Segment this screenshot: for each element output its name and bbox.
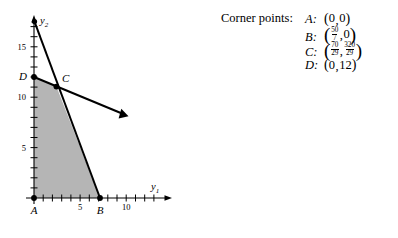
corner-point-row-D: D: (0,12) (305, 58, 362, 74)
feasible-region-plot: 5 10 5 10 15 A B C D y1 y2 (0, 0, 200, 238)
y-axis-label: y2 (39, 15, 49, 29)
x-tick-label-5: 5 (78, 202, 82, 212)
legend-title: Corner points: (221, 11, 293, 26)
corner-point-C-marker (54, 84, 60, 90)
corner-point-B-marker (97, 195, 103, 201)
corner-point-A-label: A (30, 204, 38, 216)
y-tick-label-10: 10 (18, 92, 27, 102)
corner-D-y: 12 (339, 58, 352, 73)
corner-C-x-fraction: 7029 (331, 42, 339, 58)
linear-programming-figure: 5 10 5 10 15 A B C D y1 y2 Corner points… (0, 0, 398, 238)
x-axis-arrowhead (165, 195, 173, 200)
corner-point-C-label: C (62, 72, 70, 84)
corner-point-D-label: D (18, 70, 27, 82)
corner-B-x-fraction: 507 (331, 27, 339, 43)
x-tick-label-10: 10 (122, 202, 131, 212)
y-tick-label-15: 15 (18, 42, 27, 52)
objective-arrowhead (119, 109, 129, 119)
feasible-region-shading (34, 77, 100, 198)
corner-point-row-C: C: (7029,32029) (305, 42, 362, 58)
corner-point-row-B: B: (507,0) (305, 27, 362, 43)
y-tick-label-5: 5 (22, 143, 26, 153)
corner-point-B-label: B (97, 204, 104, 216)
x-axis-label: y1 (150, 181, 159, 195)
corner-point-C-value: (7029,32029) (324, 42, 362, 58)
corner-point-B-key: B: (305, 30, 324, 45)
corner-point-A-marker (31, 195, 37, 201)
plot-panel: 5 10 5 10 15 A B C D y1 y2 (0, 0, 200, 238)
corner-point-D-key: D: (305, 58, 324, 73)
corner-C-y-fraction: 32029 (344, 42, 356, 58)
corner-points-list: A: (0,0) B: (507,0) C: (7029,32029) D: (305, 11, 362, 73)
corner-point-D-marker (31, 74, 37, 80)
corner-point-A-key: A: (305, 12, 324, 27)
y-intercept-marker (32, 19, 37, 24)
